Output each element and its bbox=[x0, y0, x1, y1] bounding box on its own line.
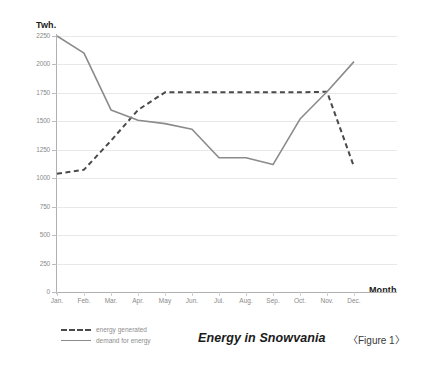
x-axis-tick-mark bbox=[192, 292, 193, 296]
legend-swatch-solid-icon bbox=[61, 340, 91, 341]
figure-caption: 〈Figure 1〉 bbox=[348, 332, 405, 347]
y-axis-tick-label: 0 bbox=[0, 288, 50, 295]
y-axis-tick-label: 1000 bbox=[0, 174, 50, 181]
x-axis-tick-mark bbox=[246, 292, 247, 296]
x-axis-tick-label: Mar. bbox=[96, 297, 126, 304]
x-axis-tick-mark bbox=[57, 292, 58, 296]
x-axis-tick-label: Jul. bbox=[204, 297, 234, 304]
x-axis-tick-mark bbox=[165, 292, 166, 296]
x-axis-tick-label: Oct. bbox=[285, 297, 315, 304]
x-axis-tick-label: Aug. bbox=[231, 297, 261, 304]
legend-swatch-dashed-icon bbox=[61, 329, 91, 331]
chart-title: Energy in Snowvania bbox=[198, 331, 326, 345]
x-axis-tick-label: Dec. bbox=[339, 297, 369, 304]
y-axis-tick-label: 2000 bbox=[0, 60, 50, 67]
legend: energy generated demand for energy bbox=[61, 324, 151, 346]
plot-area bbox=[57, 36, 397, 292]
series-lines bbox=[57, 36, 397, 292]
x-axis-tick-label: Apr. bbox=[123, 297, 153, 304]
x-axis-tick-label: Sep. bbox=[258, 297, 288, 304]
y-axis-tick-label: 1250 bbox=[0, 146, 50, 153]
series-line-energy-generated bbox=[57, 92, 354, 174]
y-axis-title: Twh. bbox=[36, 20, 56, 30]
x-axis-tick-mark bbox=[138, 292, 139, 296]
x-axis-tick-label: May bbox=[150, 297, 180, 304]
y-axis-tick-label: 750 bbox=[0, 203, 50, 210]
legend-label-demand-for-energy: demand for energy bbox=[96, 337, 151, 344]
y-axis-tick-label: 1500 bbox=[0, 117, 50, 124]
x-axis-tick-label: Nov. bbox=[312, 297, 342, 304]
y-axis-tick-label: 250 bbox=[0, 260, 50, 267]
series-line-demand-for-energy bbox=[57, 36, 354, 165]
legend-label-energy-generated: energy generated bbox=[96, 326, 147, 333]
y-axis-tick-label: 2250 bbox=[0, 32, 50, 39]
x-axis-tick-mark bbox=[354, 292, 355, 296]
x-axis-line bbox=[56, 292, 397, 293]
x-axis-tick-mark bbox=[300, 292, 301, 296]
y-axis-tick-label: 1750 bbox=[0, 89, 50, 96]
legend-item-energy-generated: energy generated bbox=[61, 324, 151, 335]
y-axis-tick-label: 500 bbox=[0, 231, 50, 238]
x-axis-tick-mark bbox=[327, 292, 328, 296]
x-axis-tick-mark bbox=[219, 292, 220, 296]
x-axis-tick-mark bbox=[84, 292, 85, 296]
x-axis-tick-label: Feb. bbox=[69, 297, 99, 304]
x-axis-tick-mark bbox=[111, 292, 112, 296]
chart-figure: Twh. Month 02505007501000125015001750200… bbox=[0, 0, 435, 366]
legend-item-demand-for-energy: demand for energy bbox=[61, 335, 151, 346]
x-axis-tick-label: Jun. bbox=[177, 297, 207, 304]
x-axis-tick-mark bbox=[273, 292, 274, 296]
x-axis-tick-label: Jan. bbox=[42, 297, 72, 304]
